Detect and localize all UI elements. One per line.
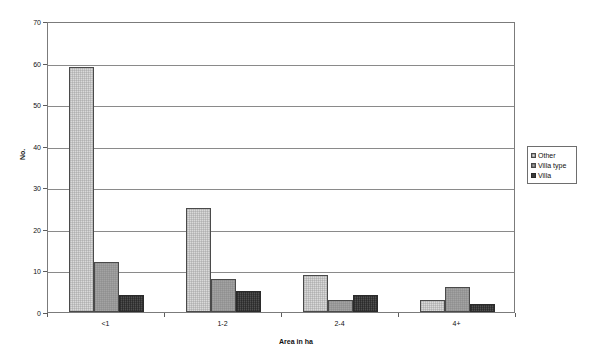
x-axis-tick-mark <box>398 313 399 317</box>
gridline <box>48 65 514 66</box>
y-axis-tick-label: 60 <box>15 60 41 67</box>
legend-label-villa: Villa <box>538 172 551 179</box>
gridline <box>48 148 514 149</box>
y-axis-tick-label: 30 <box>15 185 41 192</box>
y-axis-title: No. <box>19 149 26 160</box>
x-axis-tick-label: <1 <box>102 320 110 327</box>
bar <box>353 295 378 312</box>
bar <box>470 304 495 312</box>
x-axis-title: Area in ha <box>0 338 592 345</box>
x-axis-tick-mark <box>515 313 516 317</box>
legend-swatch-other-icon <box>531 153 536 158</box>
y-axis-tick-label: 40 <box>15 143 41 150</box>
y-axis-tick-label: 0 <box>15 310 41 317</box>
gridline <box>48 231 514 232</box>
bar <box>186 208 211 312</box>
legend-swatch-villa-type-icon <box>531 163 536 168</box>
bar <box>236 291 261 312</box>
bar <box>119 295 144 312</box>
bar <box>420 300 445 312</box>
y-axis-tick-label: 10 <box>15 268 41 275</box>
x-axis-tick-mark <box>281 313 282 317</box>
x-axis-tick-mark <box>164 313 165 317</box>
bar-chart: No. 010203040506070 <11-22-44+ Area in h… <box>0 0 592 359</box>
legend-label-other: Other <box>538 152 556 159</box>
x-axis-tick-mark <box>47 313 48 317</box>
legend-item-other: Other <box>531 150 573 160</box>
bar <box>303 275 328 312</box>
legend-label-villa-type: Villa type <box>538 162 566 169</box>
y-axis-tick-label: 70 <box>15 19 41 26</box>
x-axis-tick-label: 1-2 <box>217 320 227 327</box>
bar <box>69 67 94 312</box>
plot-area <box>47 22 515 313</box>
x-axis-tick-label: 2-4 <box>334 320 344 327</box>
gridline <box>48 189 514 190</box>
bar <box>328 300 353 312</box>
bar <box>94 262 119 312</box>
bar <box>211 279 236 312</box>
legend-swatch-villa-icon <box>531 173 536 178</box>
chart-legend: Other Villa type Villa <box>527 146 577 184</box>
legend-item-villa-type: Villa type <box>531 160 573 170</box>
y-axis-tick-label: 50 <box>15 102 41 109</box>
x-axis-tick-label: 4+ <box>453 320 461 327</box>
gridline <box>48 106 514 107</box>
y-axis-tick-label: 20 <box>15 226 41 233</box>
bar <box>445 287 470 312</box>
legend-item-villa: Villa <box>531 170 573 180</box>
